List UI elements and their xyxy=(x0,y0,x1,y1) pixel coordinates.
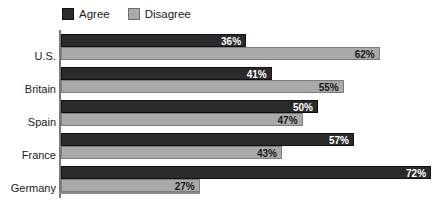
bar-agree-france[interactable]: 57% xyxy=(61,133,354,146)
bar-value-agree-germany: 72% xyxy=(406,167,426,178)
legend-swatch-disagree-icon xyxy=(128,8,140,20)
category-label-france: France xyxy=(2,149,56,161)
category-label-spain: Spain xyxy=(2,116,56,128)
bar-value-disagree-germany: 27% xyxy=(175,180,195,191)
legend-swatch-agree-icon xyxy=(62,8,74,20)
category-label-us: U.S. xyxy=(2,50,56,62)
bar-disagree-britain[interactable]: 55% xyxy=(61,80,344,93)
legend-item-disagree: Disagree xyxy=(128,8,191,20)
bar-agree-spain[interactable]: 50% xyxy=(61,100,318,113)
bar-agree-us[interactable]: 36% xyxy=(61,34,246,47)
legend-label-agree: Agree xyxy=(79,8,110,20)
bar-value-agree-britain: 41% xyxy=(247,68,267,79)
legend-item-agree: Agree xyxy=(62,8,110,20)
bar-value-agree-spain: 50% xyxy=(293,101,313,112)
x-baseline xyxy=(59,192,200,194)
legend-label-disagree: Disagree xyxy=(145,8,191,20)
plot-area: U.S. Britain Spain France Germany 36% 62… xyxy=(0,28,442,200)
bar-disagree-us[interactable]: 62% xyxy=(61,47,380,60)
bar-value-disagree-france: 43% xyxy=(257,147,277,158)
bar-chart: Agree Disagree U.S. Britain Spain France… xyxy=(0,0,442,209)
category-label-germany: Germany xyxy=(2,182,56,194)
bar-value-disagree-britain: 55% xyxy=(319,81,339,92)
chart-legend: Agree Disagree xyxy=(62,7,191,21)
bar-value-agree-france: 57% xyxy=(329,134,349,145)
bar-agree-germany[interactable]: 72% xyxy=(61,166,431,179)
bar-value-disagree-us: 62% xyxy=(355,48,375,59)
bar-disagree-germany[interactable]: 27% xyxy=(61,179,200,192)
bar-value-disagree-spain: 47% xyxy=(278,114,298,125)
bar-disagree-france[interactable]: 43% xyxy=(61,146,282,159)
bar-value-agree-us: 36% xyxy=(221,35,241,46)
bar-disagree-spain[interactable]: 47% xyxy=(61,113,303,126)
bar-agree-britain[interactable]: 41% xyxy=(61,67,272,80)
category-label-britain: Britain xyxy=(2,83,56,95)
